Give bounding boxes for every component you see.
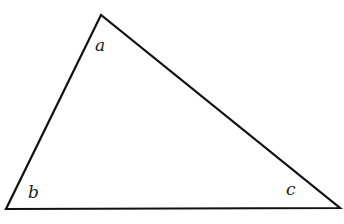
vertex-label-b: b: [28, 182, 39, 202]
triangle-diagram: a b c: [0, 0, 344, 224]
vertex-label-a: a: [95, 35, 105, 55]
vertex-label-c: c: [286, 179, 296, 199]
